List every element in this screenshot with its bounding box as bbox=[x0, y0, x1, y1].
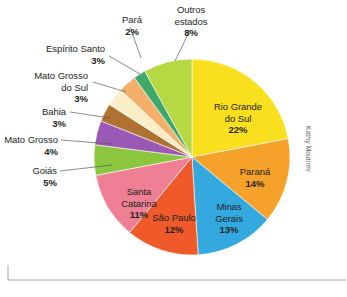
slice-label-mato-grosso-do-sul: Mato Grosso do Sul 3% bbox=[8, 70, 88, 105]
slice-label-percent: 3% bbox=[8, 93, 88, 105]
image-credit: Kathy Moutinhi bbox=[305, 126, 312, 172]
slice-label-name: Pará bbox=[108, 14, 156, 26]
slice-label-name: Minas bbox=[200, 201, 258, 213]
slice-label-name: Santa bbox=[108, 186, 170, 198]
slice-label-percent: 3% bbox=[10, 55, 105, 67]
slice-label-percent: 22% bbox=[195, 124, 281, 136]
slice-label-outros-estados: Outros estados 8% bbox=[162, 4, 220, 39]
slice-label-santa-catarina: Santa Catarina 11% bbox=[108, 186, 170, 221]
slice-label-percent: 13% bbox=[200, 224, 258, 236]
slice-label-percent: 2% bbox=[108, 26, 156, 38]
pie-chart-figure: Rio Grande do Sul 22% Paraná 14% Minas G… bbox=[0, 0, 347, 297]
slice-label-espirito-santo: Espírito Santo 3% bbox=[10, 43, 105, 66]
slice-label-percent: 14% bbox=[222, 178, 288, 190]
slice-label-name: Goiás bbox=[2, 165, 57, 177]
slice-label-name-line2: do Sul bbox=[8, 82, 88, 94]
leader-line-espirito-santo bbox=[109, 56, 140, 74]
slice-label-name: Mato Grosso bbox=[0, 134, 58, 146]
slice-label-percent: 5% bbox=[2, 177, 57, 189]
slice-label-percent: 3% bbox=[8, 118, 66, 130]
slice-label-name: Espírito Santo bbox=[10, 43, 105, 55]
slice-label-name: Bahia bbox=[8, 106, 66, 118]
slice-label-name-line2: do Sul bbox=[195, 113, 281, 125]
slice-label-parana: Paraná 14% bbox=[222, 166, 288, 189]
slice-label-percent: 4% bbox=[0, 146, 58, 158]
slice-label-name-line2: Gerais bbox=[200, 213, 258, 225]
slice-label-name: Rio Grande bbox=[195, 101, 281, 113]
slice-label-name-line2: Catarina bbox=[108, 198, 170, 210]
slice-label-percent: 11% bbox=[108, 209, 170, 221]
slice-label-goias: Goiás 5% bbox=[2, 165, 57, 188]
slice-label-mato-grosso: Mato Grosso 4% bbox=[0, 134, 58, 157]
slice-label-name: Paraná bbox=[222, 166, 288, 178]
slice-label-name-line2: estados bbox=[162, 16, 220, 28]
slice-label-percent: 12% bbox=[141, 224, 207, 236]
slice-label-name: Mato Grosso bbox=[8, 70, 88, 82]
slice-label-para: Pará 2% bbox=[108, 14, 156, 37]
slice-label-percent: 8% bbox=[162, 27, 220, 39]
leader-line-mato-grosso-do-sul bbox=[93, 82, 126, 92]
slice-label-minas-gerais: Minas Gerais 13% bbox=[200, 201, 258, 236]
slice-label-name: Outros bbox=[162, 4, 220, 16]
slice-label-rio-grande-do-sul: Rio Grande do Sul 22% bbox=[195, 101, 281, 136]
slice-label-bahia: Bahia 3% bbox=[8, 106, 66, 129]
